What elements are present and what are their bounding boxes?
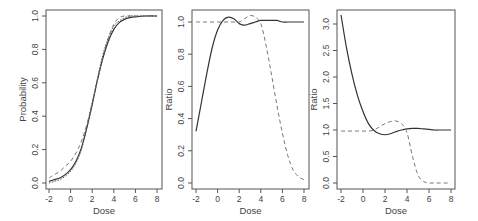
y-tick-label: 0.8 — [30, 43, 40, 55]
y-tick-label: 0.2 — [30, 143, 40, 155]
y-tick-label: 0.4 — [176, 112, 186, 124]
figure: -2024680.00.20.40.60.81.0DoseProbability… — [0, 0, 478, 221]
x-tick-label: 4 — [258, 194, 263, 204]
series-line-solid — [196, 17, 304, 131]
y-tick-label: 1.0 — [30, 10, 40, 22]
y-tick-label: 2.0 — [321, 71, 331, 83]
x-tick-label: 8 — [155, 194, 160, 204]
y-tick-label: 1.5 — [321, 97, 331, 109]
x-tick-label: 4 — [111, 194, 116, 204]
x-tick-label: -2 — [45, 194, 53, 204]
x-axis-label: Dose — [239, 205, 261, 216]
panel-ratio-middle: -2024680.00.20.40.60.81.0DoseRatio — [163, 10, 309, 216]
y-tick-label: 0.0 — [176, 177, 186, 189]
x-tick-label: 6 — [133, 194, 138, 204]
series-line-solid — [49, 16, 157, 181]
x-tick-label: 0 — [215, 194, 220, 204]
x-tick-label: 6 — [280, 194, 285, 204]
y-tick-label: 2.5 — [321, 44, 331, 56]
y-tick-label: 0.2 — [176, 145, 186, 157]
x-axis-label: Dose — [385, 205, 407, 216]
x-tick-label: -2 — [192, 194, 200, 204]
x-tick-label: 4 — [405, 194, 410, 204]
y-tick-label: 0.4 — [30, 110, 40, 122]
y-tick-label: 1.0 — [176, 16, 186, 28]
x-tick-label: 0 — [361, 194, 366, 204]
series-line-dashed — [196, 15, 304, 179]
y-tick-label: 0.0 — [321, 177, 331, 189]
x-tick-label: 0 — [68, 194, 73, 204]
x-tick-label: 2 — [237, 194, 242, 204]
y-axis-label: Probability — [17, 77, 28, 122]
panel-probability: -2024680.00.20.40.60.81.0DoseProbability — [17, 10, 162, 216]
plot-frame — [46, 10, 162, 189]
series-line-solid — [341, 15, 451, 135]
x-axis-label: Dose — [93, 205, 115, 216]
y-tick-label: 1.0 — [321, 124, 331, 136]
x-tick-label: 8 — [302, 194, 307, 204]
x-tick-label: -2 — [337, 194, 345, 204]
x-tick-label: 6 — [427, 194, 432, 204]
x-tick-label: 2 — [90, 194, 95, 204]
y-tick-label: 3.0 — [321, 18, 331, 30]
series-line-dotted — [49, 16, 157, 183]
y-axis-label: Ratio — [308, 88, 319, 110]
y-tick-label: 0.0 — [30, 177, 40, 189]
plot-frame — [337, 10, 455, 189]
series-line-dashed — [49, 16, 157, 178]
y-tick-label: 0.5 — [321, 150, 331, 162]
y-tick-label: 0.8 — [176, 48, 186, 60]
y-tick-label: 0.6 — [30, 77, 40, 89]
x-tick-label: 2 — [383, 194, 388, 204]
x-tick-label: 8 — [449, 194, 454, 204]
panel-ratio-right: -2024680.00.51.01.52.02.53.0DoseRatio — [308, 10, 455, 216]
y-tick-label: 0.6 — [176, 80, 186, 92]
y-axis-label: Ratio — [163, 88, 174, 110]
plot-frame — [192, 10, 309, 189]
